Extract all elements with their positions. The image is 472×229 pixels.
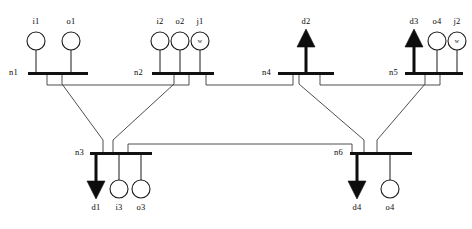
wind-glyph-j2: w [455,38,460,44]
tie-line-n3-n6[interactable] [128,144,352,152]
bus-bar-n6[interactable] [350,152,412,155]
unit-label-i1: i1 [32,16,39,26]
generator-unit-i3[interactable] [110,180,128,198]
bus-layer: n1n2n3n4n5n6 [9,67,463,157]
tie-line-n5-n6[interactable] [377,75,425,152]
wind-glyph-j1: w [198,38,203,44]
bus-label-n4: n4 [262,67,271,77]
bus-label-n5: n5 [389,67,398,77]
tie-line-n2-n3[interactable] [113,75,174,152]
unit-label-o1: o1 [67,16,76,26]
load-label-d1: d1 [92,202,101,212]
unit-label-o2: o2 [176,16,185,26]
tie-line-layer [47,75,440,152]
unit-label-o4t: o4 [433,16,442,26]
unit-label-o4b: o4 [386,202,395,212]
unit-label-i3: i3 [115,202,122,212]
load-arrow-d4[interactable] [348,181,366,199]
bus-bar-n2[interactable] [152,72,214,75]
unit-label-o3: o3 [137,202,146,212]
generator-unit-o4b[interactable] [381,180,399,198]
bus-bar-n4[interactable] [278,72,334,75]
load-label-d2: d2 [302,16,311,26]
generator-unit-o4t[interactable] [428,32,446,50]
unit-label-j1: j1 [195,16,203,26]
bus-bar-n3[interactable] [90,152,152,155]
tie-line-n1-n3[interactable] [62,75,103,152]
generator-unit-i2[interactable] [151,32,169,50]
bus-label-n1: n1 [9,67,18,77]
unit-label-j2: j2 [452,16,460,26]
tie-line-n1-n2[interactable] [47,75,189,85]
tie-line-n2-n4[interactable] [206,75,293,85]
tie-line-n4-n6[interactable] [299,75,364,152]
load-label-d4: d4 [353,202,362,212]
load-arrow-d1[interactable] [87,181,105,199]
tie-line-n4-n5[interactable] [320,75,440,85]
bus-label-n6: n6 [334,147,343,157]
bus-bar-n5[interactable] [405,72,463,75]
load-arrow-d2[interactable] [297,29,315,47]
unit-label-i2: i2 [156,16,163,26]
bus-label-n3: n3 [75,147,84,157]
diagram-canvas: n1n2n3n4n5n6 i1o1i2o2wj1o4wj2i3o3o4 d2d3… [0,0,472,229]
bus-bar-n1[interactable] [28,72,88,75]
load-arrow-d3[interactable] [405,29,423,47]
single-line-diagram: n1n2n3n4n5n6 i1o1i2o2wj1o4wj2i3o3o4 d2d3… [0,0,472,229]
generator-unit-o2[interactable] [171,32,189,50]
generator-unit-o3[interactable] [132,180,150,198]
bus-label-n2: n2 [134,67,143,77]
generator-unit-i1[interactable] [27,32,45,50]
generator-unit-o1[interactable] [62,32,80,50]
load-label-d3: d3 [410,16,419,26]
